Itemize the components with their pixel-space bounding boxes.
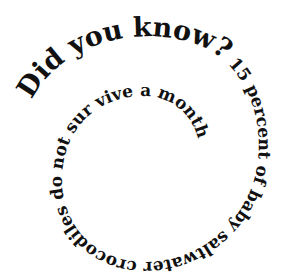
spiral-svg: Did you know? 15 percent of baby saltwat… [0,0,281,280]
spiral-text-graphic: Did you know? 15 percent of baby saltwat… [0,0,281,280]
spiral-text: Did you know? 15 percent of baby saltwat… [10,11,275,278]
body-phrase: 15 percent of baby saltwater crocodiles … [46,48,275,278]
